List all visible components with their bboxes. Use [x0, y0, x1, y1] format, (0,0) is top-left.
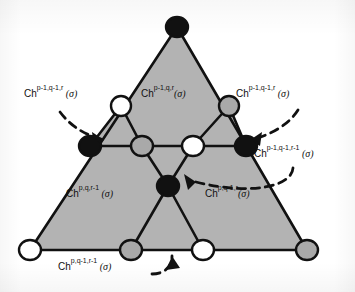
label-lower-left-prefix: Ch — [66, 188, 79, 199]
vertex-mid-center-left[interactable] — [131, 136, 153, 156]
label-top-center-prefix: Ch — [141, 88, 154, 99]
vertex-bottom-left[interactable] — [19, 240, 41, 260]
label-top-left-sup: p-1,q-1,r — [37, 84, 63, 91]
label-bottom: Chp,q-1,r-1 (σ) — [58, 261, 111, 272]
vertex-bottom-center-right[interactable] — [192, 240, 214, 260]
label-lower-right: Chp,q-1,r(σ) — [205, 188, 250, 199]
vertex-mid-center-right[interactable] — [182, 136, 204, 156]
vertex-upper-left[interactable] — [111, 96, 131, 116]
label-top-right: Chp-1,q-1,r (σ) — [236, 88, 289, 99]
label-top-right-sup: p-1,q-1,r — [249, 84, 275, 91]
label-right-middle-sup: p-1,q-1,r-1 — [267, 144, 300, 151]
label-right-middle-prefix: Ch — [254, 148, 267, 159]
label-right-middle: Chp-1,q-1,r-1 (σ) — [254, 148, 314, 159]
vertex-mid-left[interactable] — [79, 136, 101, 156]
simplex-diagram — [0, 0, 355, 292]
label-lower-right-sup: p,q-1,r — [218, 184, 238, 191]
label-top-center-arg: (σ) — [174, 88, 186, 99]
label-top-center-sup: p-1,q,r — [154, 84, 174, 91]
vertex-bottom-center-left[interactable] — [120, 240, 142, 260]
vertex-center[interactable] — [157, 176, 179, 196]
label-top-right-arg: (σ) — [275, 88, 289, 99]
label-bottom-prefix: Ch — [58, 261, 71, 272]
label-lower-right-prefix: Ch — [205, 188, 218, 199]
label-lower-left-arg: (σ) — [99, 188, 113, 199]
label-top-left-arg: (σ) — [63, 88, 77, 99]
label-top-left: Chp-1,q-1,r (σ) — [24, 88, 77, 99]
label-lower-left: Chp,q,r-1 (σ) — [66, 188, 113, 199]
label-bottom-arg: (σ) — [97, 261, 111, 272]
vertex-apex[interactable] — [166, 17, 188, 37]
label-bottom-sup: p,q-1,r-1 — [71, 257, 97, 264]
vertex-upper-right[interactable] — [219, 96, 239, 116]
vertex-bottom-right[interactable] — [296, 240, 318, 260]
label-lower-right-arg: (σ) — [238, 188, 250, 199]
label-right-middle-arg: (σ) — [299, 148, 313, 159]
label-lower-left-sup: p,q,r-1 — [79, 184, 99, 191]
label-top-right-prefix: Ch — [236, 88, 249, 99]
label-top-left-prefix: Ch — [24, 88, 37, 99]
label-top-center: Chp-1,q,r(σ) — [141, 88, 186, 99]
arrowhead-bottom — [166, 256, 180, 270]
